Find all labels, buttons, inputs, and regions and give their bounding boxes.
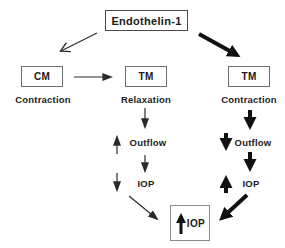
cm-contraction-label: Contraction <box>7 94 79 105</box>
iop-right-label: IOP <box>237 178 265 189</box>
iop-middle-label: IOP <box>132 178 160 189</box>
endothelin-1-box: Endothelin-1 <box>105 10 188 31</box>
arrow-endothelin-to-cm <box>61 33 97 51</box>
arrow-iop-right-to-result <box>222 195 247 218</box>
arrow-endothelin-to-tm-right <box>199 34 237 55</box>
outflow-middle-label: Outflow <box>126 137 170 148</box>
arrow-iop-middle-to-result <box>129 196 157 219</box>
iop-result-box: IOP <box>170 205 210 241</box>
endothelin-pathway-diagram: Endothelin-1 CM TM TM IOP Contraction Re… <box>0 0 285 248</box>
tm-relaxation-label: Relaxation <box>110 94 182 105</box>
tm-right-box: TM <box>228 66 270 87</box>
cm-box: CM <box>21 66 63 87</box>
tm-contraction-label: Contraction <box>213 94 285 105</box>
outflow-right-label: Outflow <box>231 137 275 148</box>
tm-middle-box: TM <box>125 66 167 87</box>
arrows-layer <box>0 0 285 248</box>
